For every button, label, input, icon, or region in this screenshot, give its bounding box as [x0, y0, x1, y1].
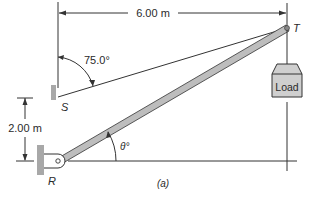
statics-diagram: 6.00 m 75.0° S T Load θ° R 2.00 m (a): [0, 0, 317, 204]
arrow-up-icon: [23, 98, 28, 105]
strut-angle-label: θ°: [120, 141, 129, 152]
arrow-right-icon: [279, 11, 286, 16]
pivot-pin: [56, 159, 60, 163]
top-pin: [285, 26, 290, 31]
span-dimension-label: 6.00 m: [136, 7, 170, 19]
arrow-head-icon: [58, 55, 64, 60]
height-dimension-label: 2.00 m: [8, 122, 42, 134]
arrow-down-icon: [23, 154, 28, 161]
wall-r: [37, 145, 44, 175]
point-r-label: R: [48, 175, 56, 187]
span-dimension: 6.00 m: [59, 7, 286, 19]
figure-caption: (a): [157, 178, 169, 189]
load-label: Load: [275, 81, 299, 93]
height-dimension: 2.00 m: [8, 98, 42, 161]
wall-s: [51, 85, 56, 100]
pivot-bracket: [44, 154, 65, 168]
point-s-label: S: [61, 101, 69, 113]
cable-angle-label: 75.0°: [84, 54, 110, 66]
arrow-head-icon: [89, 80, 95, 86]
strut-rt: [60, 25, 289, 163]
point-t-label: T: [293, 22, 301, 34]
arrow-left-icon: [59, 11, 66, 16]
